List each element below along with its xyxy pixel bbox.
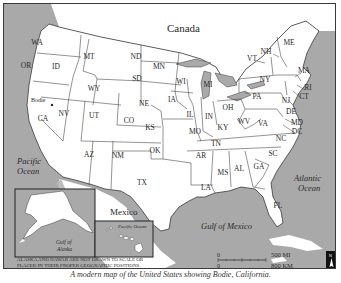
state-label-nd: ND	[131, 52, 142, 61]
map-frame: Bodie WAORIDMTNDSDWYNEMNWIMIIAILINOHPANY…	[3, 3, 336, 269]
gulf-of-mexico-label: Gulf of Mexico	[201, 221, 252, 231]
state-label-co: CO	[124, 116, 135, 125]
state-label-al: AL	[234, 164, 244, 173]
map-caption: A modern map of the United States showin…	[0, 270, 341, 279]
state-label-in: IN	[205, 112, 213, 121]
state-label-or: OR	[21, 61, 31, 70]
svg-text:0: 0	[217, 263, 220, 269]
state-label-oh: OH	[223, 103, 234, 112]
state-label-dc: DC	[292, 127, 302, 136]
state-label-il: IL	[186, 110, 193, 119]
atlantic-ocean-label-1: Atlantic	[293, 173, 321, 183]
state-label-ca: CA	[38, 114, 49, 123]
state-label-ct: CT	[299, 92, 309, 101]
state-label-wi: WI	[176, 77, 186, 86]
state-label-va: VA	[258, 119, 268, 128]
state-label-az: AZ	[84, 150, 94, 159]
state-label-me: ME	[283, 38, 295, 47]
state-label-sc: SC	[268, 149, 277, 158]
state-label-la: LA	[201, 183, 212, 192]
state-label-ok: OK	[150, 146, 161, 155]
inset-box: Gulf of Alaska Pacific Ocean ALASKA AND …	[15, 189, 153, 268]
state-label-md: MD	[291, 118, 304, 127]
pacific-ocean-label-1: Pacific	[16, 156, 41, 166]
state-label-mt: MT	[83, 52, 95, 61]
bodie-label: Bodie	[31, 97, 46, 103]
state-label-ky: KY	[218, 123, 229, 132]
state-label-wy: WY	[88, 84, 101, 93]
state-label-mi: MI	[203, 80, 213, 89]
state-label-ia: IA	[168, 95, 176, 104]
inset-pacific-ocean-label: Pacific Ocean	[117, 224, 147, 229]
caribbean-islands	[269, 235, 323, 251]
state-label-nj: NJ	[282, 96, 290, 105]
gulf-of-alaska-label-1: Gulf of	[56, 239, 73, 245]
state-label-wv: WV	[238, 117, 251, 126]
state-label-nv: NV	[59, 109, 70, 118]
svg-text:0: 0	[217, 252, 220, 258]
map-svg: Bodie WAORIDMTNDSDWYNEMNWIMIIAILINOHPANY…	[4, 4, 336, 269]
state-label-wa: WA	[31, 38, 43, 47]
state-label-id: ID	[52, 62, 60, 71]
state-label-sd: SD	[132, 74, 142, 83]
canada-label: Canada	[167, 22, 200, 34]
state-label-tx: TX	[137, 178, 148, 187]
state-label-ms: MS	[218, 168, 229, 177]
state-label-ne: NE	[139, 99, 149, 108]
state-label-pa: PA	[253, 92, 262, 101]
north-arrow-icon: N	[326, 251, 336, 269]
state-label-ny: NY	[260, 75, 271, 84]
state-label-mn: MN	[153, 62, 166, 71]
svg-text:N: N	[329, 253, 332, 258]
inset-note-line-1: ALASKA AND HAWAII ARE NOT DRAWN TO SCALE…	[17, 257, 144, 262]
state-label-nc: NC	[276, 134, 286, 143]
bodie-marker	[51, 104, 53, 106]
atlantic-ocean-label-2: Ocean	[298, 183, 320, 193]
svg-text:500 MI: 500 MI	[271, 251, 290, 258]
state-label-de: DE	[286, 107, 296, 116]
pacific-ocean-label-2: Ocean	[17, 166, 39, 176]
svg-text:800 KM: 800 KM	[271, 262, 293, 269]
state-label-ks: KS	[145, 123, 155, 132]
state-label-fl: FL	[274, 201, 283, 210]
state-label-nm: NM	[112, 151, 124, 160]
inset-note-line-2: PLACED IN THEIR PROPER GEOGRAPHIC POSITI…	[17, 263, 141, 268]
state-label-ar: AR	[196, 151, 206, 160]
state-label-mo: MO	[189, 127, 202, 136]
state-label-ma: MA	[298, 66, 311, 75]
state-label-ut: UT	[89, 111, 99, 120]
state-label-nh: NH	[261, 47, 272, 56]
state-label-ga: GA	[254, 162, 265, 171]
state-label-vt: VT	[247, 54, 257, 63]
state-label-tn: TN	[211, 139, 222, 148]
gulf-of-alaska-label-2: Alaska	[56, 246, 72, 252]
mexico-label: Mexico	[110, 207, 138, 217]
state-label-ri: RI	[304, 83, 312, 92]
